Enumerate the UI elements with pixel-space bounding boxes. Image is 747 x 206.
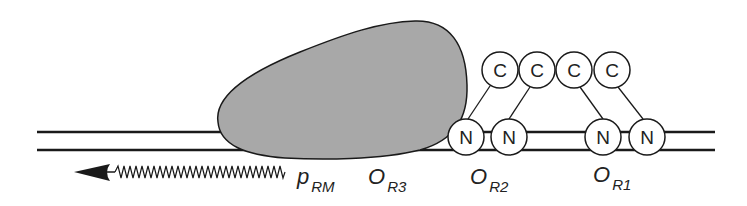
transcript-arrow bbox=[74, 164, 285, 181]
c-domain-4: C bbox=[594, 52, 630, 88]
site-labels: pRM OR3 OR2 OR1 bbox=[296, 162, 631, 195]
n-domain-label: N bbox=[640, 127, 654, 148]
n-domain-label: N bbox=[596, 127, 610, 148]
label-or2: OR2 bbox=[470, 164, 509, 195]
repressor-linkers bbox=[468, 86, 643, 119]
c-domain-2: C bbox=[519, 52, 555, 88]
linker-2 bbox=[509, 87, 530, 119]
c-domain-label: C bbox=[493, 60, 507, 81]
arrow-head-icon bbox=[74, 164, 110, 181]
c-domain-label: C bbox=[530, 60, 544, 81]
c-domain-label: C bbox=[567, 60, 581, 81]
rna-polymerase-blob bbox=[218, 21, 467, 159]
linker-3 bbox=[580, 87, 603, 119]
n-domain-4: N bbox=[629, 119, 665, 155]
n-domain-label: N bbox=[502, 127, 516, 148]
label-or1: OR1 bbox=[593, 162, 631, 193]
label-prm: pRM bbox=[296, 164, 335, 195]
mrna-zigzag bbox=[115, 166, 285, 178]
c-domain-3: C bbox=[556, 52, 592, 88]
n-domain-2: N bbox=[491, 119, 527, 155]
n-domain-label: N bbox=[459, 127, 473, 148]
repressor-operator-diagram: C C C C N N N N bbox=[0, 0, 747, 206]
c-domains: C C C C bbox=[482, 52, 630, 88]
n-domain-3: N bbox=[585, 119, 621, 155]
n-domain-1: N bbox=[448, 119, 484, 155]
linker-4 bbox=[618, 87, 643, 119]
c-domain-1: C bbox=[482, 52, 518, 88]
c-domain-label: C bbox=[605, 60, 619, 81]
label-or3: OR3 bbox=[368, 164, 407, 195]
linker-1 bbox=[468, 86, 490, 119]
